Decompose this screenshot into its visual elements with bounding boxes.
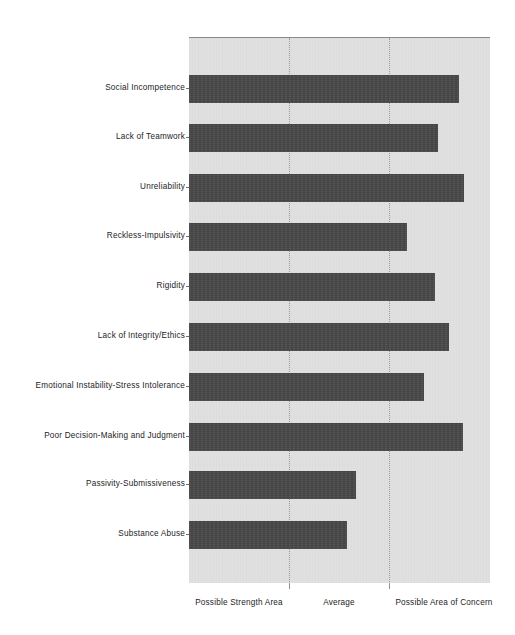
plot-area [189, 37, 490, 583]
category-label-unreliability: Unreliability [0, 182, 185, 192]
category-label-substance-abuse: Substance Abuse [0, 529, 185, 539]
bar-emotional-instability-stress-intolerance [189, 373, 424, 401]
category-label-social-incompetence: Social Incompetence [0, 83, 185, 93]
bar-lack-of-teamwork [189, 124, 438, 152]
category-label-lack-of-teamwork: Lack of Teamwork [0, 132, 185, 142]
category-label-reckless-impulsivity: Reckless-Impulsivity [0, 231, 185, 241]
bar-social-incompetence [189, 75, 459, 103]
bar-passivity-submissiveness [189, 471, 356, 499]
bar-poor-decision-making-and-judgment [189, 423, 463, 451]
x-axis-label-possible-strength-area: Possible Strength Area [174, 597, 304, 608]
category-label-poor-decision-making-and-judgment: Poor Decision-Making and Judgment [0, 431, 185, 441]
bar-lack-of-integrity-ethics [189, 323, 449, 351]
category-label-lack-of-integrity-ethics: Lack of Integrity/Ethics [0, 331, 185, 341]
gridline-average-left [289, 38, 290, 584]
bar-unreliability [189, 174, 464, 202]
bar-rigidity [189, 273, 435, 301]
gridline-average-right [389, 38, 390, 584]
bar-substance-abuse [189, 521, 347, 549]
bar-reckless-impulsivity [189, 223, 407, 251]
x-axis-label-average: Average [304, 597, 374, 608]
x-axis-label-possible-area-of-concern: Possible Area of Concern [374, 597, 514, 608]
category-label-emotional-instability-stress-intolerance: Emotional Instability-Stress Intolerance [0, 381, 185, 391]
category-label-rigidity: Rigidity [0, 281, 185, 291]
bar-chart-figure: Social Incompetence Lack of Teamwork Unr… [0, 0, 515, 635]
category-label-passivity-submissiveness: Passivity-Submissiveness [0, 479, 185, 489]
